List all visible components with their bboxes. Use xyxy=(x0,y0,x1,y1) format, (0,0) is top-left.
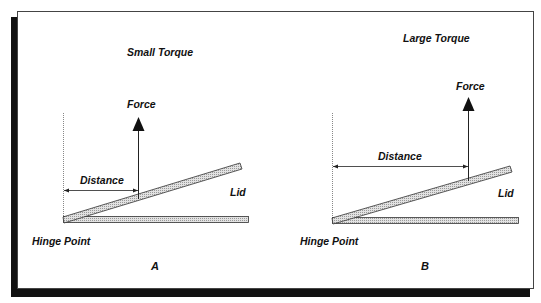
panel-a-title: Small Torque xyxy=(127,46,193,58)
force-label: Force xyxy=(456,80,485,92)
base-bar xyxy=(64,217,249,223)
force-label: Force xyxy=(127,98,156,110)
lid-label: Lid xyxy=(498,187,514,199)
diagram-frame xyxy=(18,12,534,289)
distance-label: Distance xyxy=(80,174,124,186)
panel-letter: B xyxy=(421,260,429,272)
distance-label: Distance xyxy=(378,150,422,162)
base-bar xyxy=(333,218,519,224)
hinge-point-label: Hinge Point xyxy=(300,235,359,247)
panel-b-title: Large Torque xyxy=(403,32,470,44)
panel-letter: A xyxy=(150,260,159,272)
lid-label: Lid xyxy=(230,186,246,198)
torque-diagram: Small Torque Force Distance Lid Hinge Po… xyxy=(0,0,541,303)
hinge-point-label: Hinge Point xyxy=(32,235,91,247)
